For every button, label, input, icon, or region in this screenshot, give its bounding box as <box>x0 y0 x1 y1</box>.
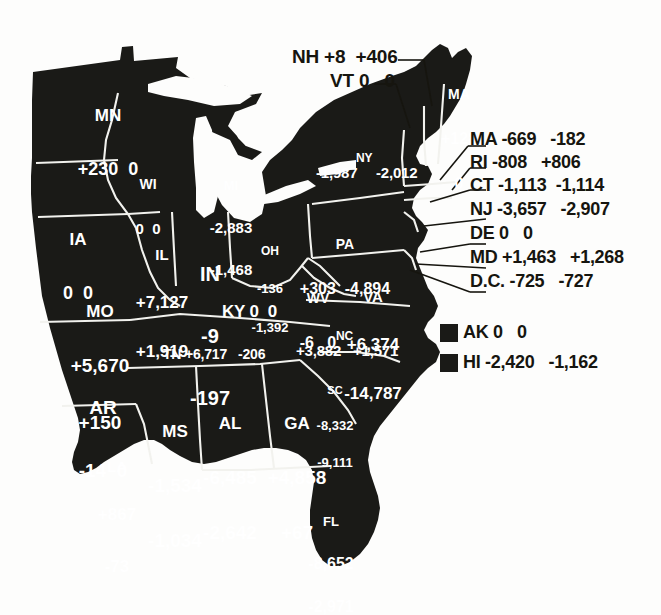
callout-row-ct: CT -1,113 -1,114 <box>470 176 660 194</box>
legend-row-ak: AK 0 0 <box>440 322 598 343</box>
state-label-la: LA +867 -73 <box>82 428 152 607</box>
callout-row-ma: MA -669 -182 <box>470 130 660 148</box>
state-value1-ny: -1,987 <box>316 165 357 180</box>
callout-row-dc: D.C. -725 -727 <box>470 272 660 290</box>
callout-row-nj: NJ -3,657 -2,907 <box>470 200 660 218</box>
legend-swatch-icon-ak <box>440 324 458 342</box>
callout-list: MA -669 -182 RI -808 +806 CT -1,113 -1,1… <box>470 130 660 290</box>
state-value2-la: -73 <box>82 558 152 576</box>
leader-de <box>420 244 470 252</box>
legend-label-ak: AK 0 0 <box>463 322 527 343</box>
state-abbr-ga: GA <box>254 415 340 433</box>
callout-row-md: MD +1,463 +1,268 <box>470 248 660 266</box>
legend-swatch-icon-hi <box>440 354 458 372</box>
state-abbr-fl: FL <box>296 515 366 529</box>
state-value1-fl: -8,652 <box>296 556 366 573</box>
state-abbr-nc: NC <box>336 330 353 342</box>
eastern-us-annotated-map: NH +8 +406 VT 0 0 MN +230 0 WI 0 0 MI -2… <box>0 0 661 615</box>
state-value1-in: -9 <box>180 326 240 347</box>
legend: AK 0 0 HI -2,420 -1,162 <box>440 322 598 382</box>
state-abbr-ny: NY <box>356 152 372 164</box>
state-label-fl: FL -8,652 -2,971 <box>296 488 366 615</box>
callout-row-ri: RI -808 +806 <box>470 153 660 171</box>
state-abbr-mn: MN <box>58 107 158 125</box>
state-label-pa: PA +303 -4,894 <box>290 208 400 326</box>
state-abbr-mi: MI <box>196 179 266 193</box>
legend-label-hi: HI -2,420 -1,162 <box>463 352 598 373</box>
state-values-nc: +3,882 +1,571 <box>296 343 398 358</box>
state-value1-la: +867 <box>82 506 152 524</box>
state-abbr-wi: WI <box>118 177 178 192</box>
state-abbr-ia: IA <box>42 231 114 249</box>
state-values-pa: +303 -4,894 <box>290 281 400 298</box>
state-abbr-pa: PA <box>290 237 400 252</box>
state-abbr-in: IN <box>180 264 240 285</box>
state-abbr-la: LA <box>82 459 152 475</box>
legend-row-hi: HI -2,420 -1,162 <box>440 352 598 373</box>
callout-vt: VT 0 0 <box>330 71 395 90</box>
state-value2-ny: -2,012 <box>376 165 417 180</box>
state-label-tn: TN +6,717 -206 <box>163 347 265 361</box>
callout-row-de: DE 0 0 <box>470 224 660 242</box>
state-label-ky: KY 0 0 <box>222 303 277 320</box>
state-value2-fl: -2,971 <box>296 599 366 615</box>
callout-nh: NH +8 +406 <box>292 47 398 66</box>
state-value1-ga: +4,858 <box>254 468 340 488</box>
state-abbr-ar: AR <box>60 398 146 418</box>
state-abbr-mo: MO <box>52 303 148 321</box>
state-abbr-me: MA <box>434 87 484 102</box>
